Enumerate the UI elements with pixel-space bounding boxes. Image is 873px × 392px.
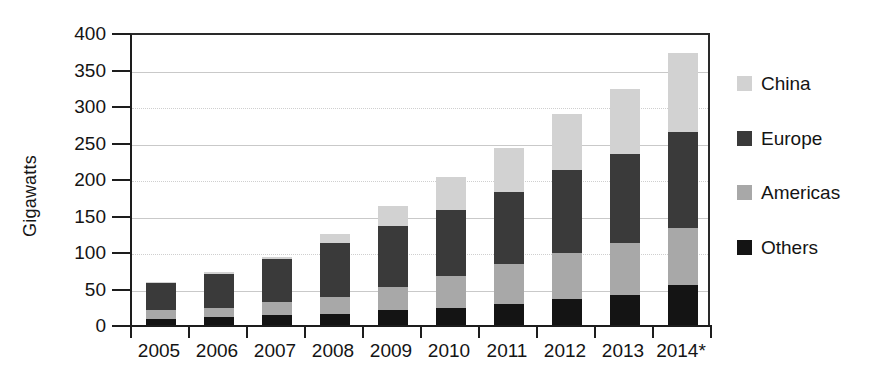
bar-2013[interactable] [610,89,640,325]
bar-segment-china[interactable] [436,177,466,210]
x-axis-tick [594,325,596,338]
bar-segment-china[interactable] [668,53,698,131]
bar-segment-others[interactable] [204,317,234,325]
legend-item-europe[interactable]: Europe [737,129,822,148]
legend-swatch-icon [737,131,752,146]
plot-area [130,33,710,325]
legend-item-china[interactable]: China [737,74,811,93]
x-axis-tick [130,325,132,338]
bar-segment-europe[interactable] [146,283,176,310]
bar-segment-others[interactable] [436,308,466,325]
x-axis-tick [478,325,480,338]
y-axis-tick [112,33,130,35]
bar-segment-americas[interactable] [668,228,698,285]
bar-2006[interactable] [204,272,234,325]
bar-2010[interactable] [436,177,466,325]
y-axis-tick [112,216,130,218]
bar-segment-americas[interactable] [494,264,524,303]
stacked-bar-chart: Gigawatts 400350300250200150100500 20052… [0,0,873,392]
bar-segment-china[interactable] [610,89,640,154]
bar-segment-americas[interactable] [204,308,234,317]
legend-swatch-icon [737,240,752,255]
y-axis-tick-label: 250 [40,133,106,152]
bar-2011[interactable] [494,148,524,325]
bar-segment-americas[interactable] [378,287,408,310]
bar-segment-americas[interactable] [436,276,466,308]
y-axis-tick [112,179,130,181]
bar-segment-americas[interactable] [146,310,176,319]
bar-segment-europe[interactable] [552,170,582,254]
bar-2009[interactable] [378,206,408,325]
y-axis-tick-label: 0 [40,316,106,335]
bar-segment-europe[interactable] [436,210,466,276]
legend-item-others[interactable]: Others [737,238,818,257]
legend-label: Europe [761,129,822,148]
bar-segment-others[interactable] [378,310,408,325]
bar-segment-china[interactable] [262,257,292,258]
bar-segment-europe[interactable] [204,274,234,308]
y-axis-tick-label: 150 [40,206,106,225]
bar-segment-china[interactable] [494,148,524,192]
y-axis-tick [112,106,130,108]
bar-segment-china[interactable] [378,206,408,226]
y-axis-tick [112,252,130,254]
bar-segment-americas[interactable] [610,243,640,296]
bar-segment-others[interactable] [320,314,350,325]
legend-swatch-icon [737,185,752,200]
bar-segment-china[interactable] [320,234,350,243]
bar-segment-americas[interactable] [262,302,292,314]
legend-label: China [761,74,811,93]
x-axis-tick [536,325,538,338]
y-axis-tick-label: 350 [40,60,106,79]
bar-segment-europe[interactable] [320,243,350,297]
bar-2007[interactable] [262,257,292,325]
x-axis-tick-label: 2014* [646,341,716,361]
bar-segment-americas[interactable] [552,253,582,299]
y-axis-tick-label: 100 [40,243,106,262]
legend-label: Others [761,238,818,257]
x-axis-tick [246,325,248,338]
x-axis-tick [188,325,190,338]
gridline [132,72,708,73]
bar-segment-china[interactable] [146,282,176,283]
x-axis-tick [304,325,306,338]
y-axis-tick-label: 200 [40,170,106,189]
y-axis-tick [112,70,130,72]
y-axis-tick [112,289,130,291]
bar-segment-others[interactable] [668,285,698,325]
bar-segment-china[interactable] [552,114,582,169]
legend-swatch-icon [737,76,752,91]
bar-segment-europe[interactable] [494,192,524,264]
x-axis-tick [420,325,422,338]
bar-segment-china[interactable] [204,272,234,273]
bar-2012[interactable] [552,114,582,325]
bar-segment-europe[interactable] [378,226,408,287]
legend-item-americas[interactable]: Americas [737,183,840,202]
bar-segment-others[interactable] [262,315,292,325]
bar-2008[interactable] [320,234,350,325]
bar-segment-others[interactable] [494,304,524,325]
y-axis-tick-label: 400 [40,24,106,43]
bar-segment-europe[interactable] [262,259,292,303]
bar-segment-others[interactable] [610,295,640,325]
bar-segment-europe[interactable] [668,132,698,228]
bar-2005[interactable] [146,282,176,325]
y-axis-tick [112,325,130,327]
x-axis-tick [362,325,364,338]
x-axis-tick [710,325,712,338]
x-axis-tick [652,325,654,338]
bar-segment-others[interactable] [552,299,582,325]
y-axis-tick-label: 50 [40,279,106,298]
y-axis-tick [112,143,130,145]
legend-label: Americas [761,183,840,202]
bar-2014[interactable] [668,53,698,325]
y-axis-tick-label: 300 [40,97,106,116]
bar-segment-americas[interactable] [320,297,350,315]
bar-segment-europe[interactable] [610,154,640,242]
